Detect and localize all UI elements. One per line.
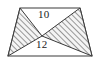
bottom-edge-label: 12 [36, 39, 47, 50]
geometry-figure: 10 12 [0, 0, 101, 65]
geometry-diagram [0, 0, 101, 65]
top-edge-label: 10 [38, 9, 49, 20]
